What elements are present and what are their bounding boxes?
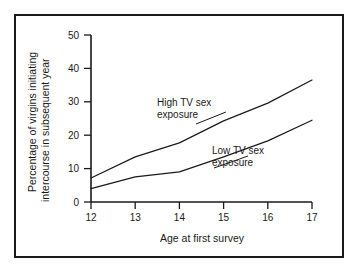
y-tick-label-20: 20 <box>68 130 80 141</box>
annotation-low-tv-sex-exposure: Low TV sex exposure <box>212 145 264 168</box>
x-tick-label-13: 13 <box>130 212 142 223</box>
x-axis-tick-labels: 12 13 14 15 16 17 <box>85 212 318 223</box>
series-line-low-tv-sex-exposure <box>91 120 312 188</box>
annotation-high-line1: High TV sex <box>157 97 211 108</box>
y-tick-label-40: 40 <box>68 63 80 74</box>
x-tick-label-16: 16 <box>262 212 274 223</box>
x-axis-title: Age at first survey <box>160 232 245 244</box>
line-chart: Percentage of virgins initiating interco… <box>16 16 342 256</box>
y-tick-label-30: 30 <box>68 96 80 107</box>
x-axis-ticks <box>91 202 312 209</box>
figure-root: Percentage of virgins initiating interco… <box>0 0 356 272</box>
series-line-high-tv-sex-exposure <box>91 80 312 178</box>
x-tick-label-15: 15 <box>218 212 230 223</box>
x-tick-label-14: 14 <box>174 212 186 223</box>
y-tick-label-0: 0 <box>73 197 79 208</box>
y-tick-label-50: 50 <box>68 30 80 41</box>
y-axis-title: Percentage of virgins initiating interco… <box>26 52 51 202</box>
y-axis-title-line2: intercourse in subsequent year <box>39 58 51 202</box>
annotation-low-line1: Low TV sex <box>212 145 264 156</box>
y-axis-title-line1: Percentage of virgins initiating <box>26 52 38 192</box>
y-axis-tick-labels: 0 10 20 30 40 50 <box>68 30 80 208</box>
x-tick-label-12: 12 <box>85 212 97 223</box>
y-axis-ticks <box>84 35 91 202</box>
annotation-low-line2: exposure <box>212 157 254 168</box>
figure-border: Percentage of virgins initiating interco… <box>14 14 344 258</box>
x-tick-label-17: 17 <box>306 212 318 223</box>
annotation-high-tv-sex-exposure: High TV sex exposure <box>157 97 211 120</box>
y-tick-label-10: 10 <box>68 163 80 174</box>
annotation-high-line2: exposure <box>157 109 199 120</box>
